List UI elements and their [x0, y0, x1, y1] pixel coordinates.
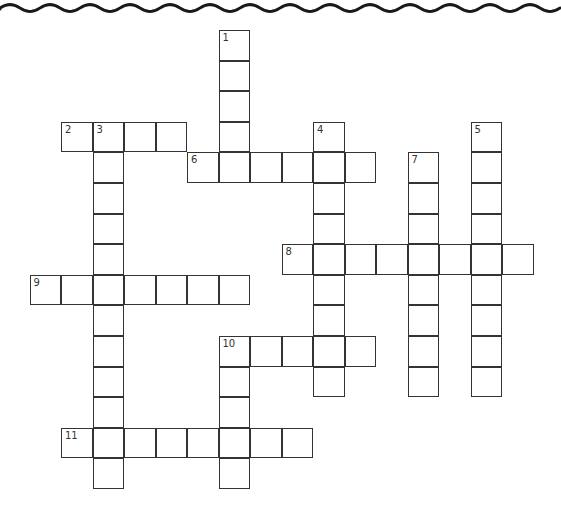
crossword-cell[interactable]: 5 [471, 122, 503, 153]
crossword-cell[interactable] [313, 244, 345, 275]
crossword-cell[interactable] [93, 367, 125, 398]
crossword-cell[interactable] [471, 275, 503, 306]
crossword-cell[interactable] [61, 275, 93, 306]
crossword-cell[interactable] [282, 336, 314, 367]
crossword-cell[interactable]: 6 [187, 152, 219, 183]
crossword-cell[interactable] [250, 336, 282, 367]
crossword-cell[interactable] [219, 122, 251, 153]
crossword-cell[interactable] [376, 244, 408, 275]
crossword-cell[interactable] [471, 152, 503, 183]
crossword-cell[interactable] [219, 397, 251, 428]
crossword-cell[interactable] [93, 214, 125, 245]
crossword-cell[interactable]: 7 [408, 152, 440, 183]
crossword-cell[interactable] [93, 336, 125, 367]
crossword-cell[interactable]: 9 [30, 275, 62, 306]
crossword-cell[interactable] [471, 367, 503, 398]
crossword-cell[interactable] [156, 428, 188, 459]
crossword-cell[interactable] [408, 214, 440, 245]
crossword-cell[interactable] [313, 214, 345, 245]
crossword-cell[interactable] [219, 91, 251, 122]
crossword-cell[interactable] [313, 305, 345, 336]
crossword-cell[interactable] [313, 367, 345, 398]
clue-number: 4 [317, 124, 323, 135]
crossword-cell[interactable] [124, 428, 156, 459]
crossword-cell[interactable] [313, 275, 345, 306]
crossword-cell[interactable] [345, 244, 377, 275]
crossword-cell[interactable] [219, 275, 251, 306]
crossword-cell[interactable] [187, 275, 219, 306]
crossword-cell[interactable] [124, 122, 156, 153]
crossword-cell[interactable] [345, 152, 377, 183]
crossword-cell[interactable] [439, 244, 471, 275]
crossword-cell[interactable] [93, 458, 125, 489]
clue-number: 5 [475, 124, 481, 135]
crossword-cell[interactable] [313, 183, 345, 214]
crossword-cell[interactable] [93, 244, 125, 275]
crossword-cell[interactable] [408, 183, 440, 214]
clue-number: 7 [412, 154, 418, 165]
clue-number: 1 [223, 32, 229, 43]
crossword-cell[interactable] [313, 336, 345, 367]
crossword-cell[interactable] [282, 428, 314, 459]
crossword-cell[interactable] [471, 183, 503, 214]
crossword-cell[interactable] [471, 305, 503, 336]
crossword-cell[interactable] [313, 152, 345, 183]
crossword-cell[interactable]: 2 [61, 122, 93, 153]
crossword-cell[interactable] [93, 397, 125, 428]
crossword-cell[interactable]: 4 [313, 122, 345, 153]
crossword-cell[interactable]: 3 [93, 122, 125, 153]
crossword-cell[interactable] [187, 428, 219, 459]
clue-number: 6 [191, 154, 197, 165]
crossword-grid: 1234567891011 [0, 0, 561, 516]
crossword-cell[interactable]: 10 [219, 336, 251, 367]
crossword-cell[interactable] [250, 428, 282, 459]
crossword-cell[interactable]: 11 [61, 428, 93, 459]
crossword-cell[interactable] [471, 244, 503, 275]
clue-number: 2 [65, 124, 71, 135]
crossword-cell[interactable] [93, 275, 125, 306]
crossword-cell[interactable]: 1 [219, 30, 251, 61]
crossword-cell[interactable] [250, 152, 282, 183]
crossword-cell[interactable] [219, 428, 251, 459]
crossword-cell[interactable] [219, 61, 251, 92]
crossword-cell[interactable] [93, 183, 125, 214]
crossword-cell[interactable] [219, 367, 251, 398]
clue-number: 11 [65, 430, 78, 441]
crossword-cell[interactable] [93, 428, 125, 459]
clue-number: 9 [34, 277, 40, 288]
crossword-cell[interactable] [345, 336, 377, 367]
crossword-cell[interactable] [124, 275, 156, 306]
crossword-cell[interactable] [408, 305, 440, 336]
crossword-cell[interactable] [408, 275, 440, 306]
crossword-cell[interactable] [93, 305, 125, 336]
crossword-cell[interactable] [502, 244, 534, 275]
crossword-cell[interactable]: 8 [282, 244, 314, 275]
crossword-cell[interactable] [156, 275, 188, 306]
crossword-cell[interactable] [156, 122, 188, 153]
crossword-cell[interactable] [408, 336, 440, 367]
clue-number: 8 [286, 246, 292, 257]
clue-number: 10 [223, 338, 236, 349]
crossword-cell[interactable] [408, 367, 440, 398]
crossword-cell[interactable] [408, 244, 440, 275]
crossword-cell[interactable] [219, 458, 251, 489]
crossword-cell[interactable] [471, 336, 503, 367]
crossword-cell[interactable] [471, 214, 503, 245]
crossword-cell[interactable] [93, 152, 125, 183]
clue-number: 3 [97, 124, 103, 135]
crossword-cell[interactable] [219, 152, 251, 183]
crossword-cell[interactable] [282, 152, 314, 183]
